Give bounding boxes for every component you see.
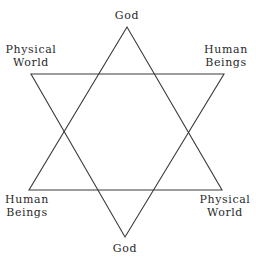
- label-line: Beings: [2, 206, 52, 219]
- label-top-god: God: [107, 9, 147, 22]
- label-line: Physical: [2, 43, 60, 56]
- label-upper-left-physical-world: Physical World: [2, 43, 60, 69]
- label-line: World: [2, 56, 60, 69]
- label-line: Human: [198, 43, 254, 56]
- label-line: God: [107, 9, 147, 22]
- label-line: God: [105, 242, 145, 255]
- label-line: Beings: [198, 56, 254, 69]
- label-bottom-god: God: [105, 242, 145, 255]
- label-line: Human: [2, 193, 52, 206]
- label-lower-left-human-beings: Human Beings: [2, 193, 52, 219]
- hexagram-shape: [0, 0, 256, 262]
- label-upper-right-human-beings: Human Beings: [198, 43, 254, 69]
- hexagram-diagram: God Physical World Human Beings Human Be…: [0, 0, 256, 262]
- label-lower-right-physical-world: Physical World: [196, 193, 254, 219]
- label-line: World: [196, 206, 254, 219]
- label-line: Physical: [196, 193, 254, 206]
